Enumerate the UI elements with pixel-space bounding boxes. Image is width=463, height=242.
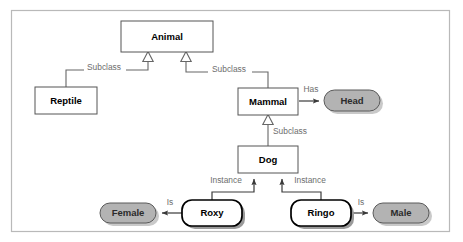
edge-label-subclass-reptile: Subclass: [87, 62, 121, 72]
node-label-ringo: Ringo: [308, 207, 335, 218]
node-ringo[interactable]: Ringo: [291, 200, 354, 229]
node-label-female: Female: [112, 207, 145, 218]
edge-ringo-instance-dog: Instance: [282, 175, 333, 200]
node-label-animal: Animal: [151, 31, 183, 42]
node-female[interactable]: Female: [100, 203, 159, 226]
node-label-reptile: Reptile: [50, 95, 82, 106]
edge-roxy-instance-dog: Instance: [205, 175, 254, 200]
edge-dog-subclass-mammal: Subclass: [263, 115, 307, 147]
node-label-roxy: Roxy: [200, 207, 224, 218]
edge-label-subclass-mammal: Subclass: [212, 64, 246, 74]
node-reptile[interactable]: Reptile: [35, 87, 97, 114]
node-label-male: Male: [390, 207, 411, 218]
edge-label-instance-roxy: Instance: [210, 175, 242, 185]
node-mammal[interactable]: Mammal: [238, 88, 298, 115]
edge-mammal-subclass-animal: Subclass: [181, 52, 268, 89]
edge-reptile-subclass-animal: Subclass: [66, 52, 153, 88]
node-male[interactable]: Male: [373, 203, 432, 226]
diagram-frame: [12, 11, 450, 232]
node-label-mammal: Mammal: [249, 96, 287, 107]
edge-mammal-has-head: Has: [299, 84, 319, 101]
node-head[interactable]: Head: [324, 90, 383, 114]
edge-label-is-female: Is: [167, 197, 174, 207]
node-label-head: Head: [340, 95, 363, 106]
diagram-canvas: Subclass Subclass Subclass Has Instance: [0, 0, 463, 242]
edge-label-instance-ringo: Instance: [294, 175, 326, 185]
edge-label-has: Has: [304, 84, 319, 94]
edge-roxy-is-female: Is: [162, 197, 182, 213]
edge-label-is-male: Is: [358, 197, 365, 207]
edge-label-subclass-dog: Subclass: [273, 126, 307, 136]
class-hierarchy-diagram: Subclass Subclass Subclass Has Instance: [0, 0, 463, 242]
node-animal[interactable]: Animal: [121, 21, 213, 52]
node-roxy[interactable]: Roxy: [182, 200, 245, 229]
node-dog[interactable]: Dog: [238, 146, 298, 173]
node-label-dog: Dog: [259, 154, 278, 165]
